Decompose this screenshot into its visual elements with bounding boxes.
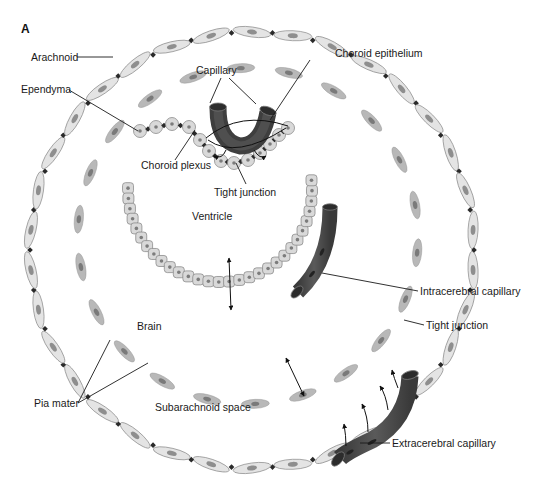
- label-choroid-epithelium: Choroid epithelium: [335, 47, 423, 59]
- label-intracerebral-capillary: Intracerebral capillary: [420, 285, 521, 297]
- label-subarachnoid-space: Subarachnoid space: [155, 401, 251, 413]
- label-ependyma: Ependyma: [21, 83, 71, 95]
- blood-brain-barrier-diagram: A: [0, 0, 536, 484]
- panel-label: A: [21, 22, 30, 36]
- label-choroid-plexus: Choroid plexus: [141, 159, 211, 171]
- label-tight-junction-top: Tight junction: [214, 186, 276, 198]
- pia-mater-layer: [73, 63, 423, 409]
- label-arachnoid: Arachnoid: [31, 51, 78, 63]
- label-brain: Brain: [137, 320, 162, 332]
- label-extracerebral-capillary: Extracerebral capillary: [392, 437, 497, 449]
- label-capillary: Capillary: [196, 64, 238, 76]
- extracerebral-capillary: [329, 369, 419, 468]
- label-tight-junction-right: Tight junction: [426, 319, 488, 331]
- label-pia-mater: Pia mater: [34, 397, 79, 409]
- label-ventricle: Ventricle: [192, 210, 232, 222]
- brain-csf-diffusion-arrow: [286, 358, 304, 396]
